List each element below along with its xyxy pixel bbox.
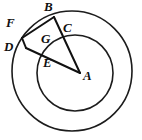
segment-DA bbox=[26, 48, 80, 73]
outer-circle bbox=[12, 11, 132, 131]
point-label-C: C bbox=[63, 21, 72, 34]
point-label-G: G bbox=[41, 32, 50, 45]
point-label-E: E bbox=[43, 56, 52, 69]
point-label-D: D bbox=[4, 40, 13, 53]
segment-FD bbox=[22, 38, 26, 48]
point-label-B: B bbox=[44, 0, 53, 13]
inner-circle bbox=[37, 35, 113, 111]
point-label-F: F bbox=[6, 16, 15, 29]
geometry-figure: A B C D E F G bbox=[0, 0, 142, 140]
point-label-A: A bbox=[83, 69, 92, 82]
